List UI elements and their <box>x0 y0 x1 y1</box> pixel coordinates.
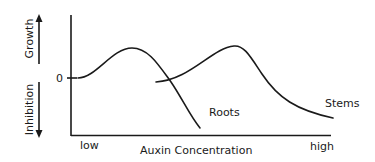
stems-series-label: Stems <box>325 98 360 109</box>
stems-curve <box>156 46 333 118</box>
zero-tick-label: 0 <box>56 73 63 84</box>
auxin-response-diagram: Growth Inhibition 0 low Auxin Concentrat… <box>0 0 375 162</box>
x-tick-high: high <box>310 141 334 152</box>
growth-label: Growth <box>24 13 35 65</box>
inhibition-arrow-icon <box>36 82 43 138</box>
x-axis-title: Auxin Concentration <box>140 145 252 156</box>
roots-curve <box>78 48 200 128</box>
roots-series-label: Roots <box>209 107 240 118</box>
x-tick-low: low <box>80 140 99 151</box>
growth-arrow-icon <box>36 14 43 64</box>
inhibition-label: Inhibition <box>24 73 35 147</box>
